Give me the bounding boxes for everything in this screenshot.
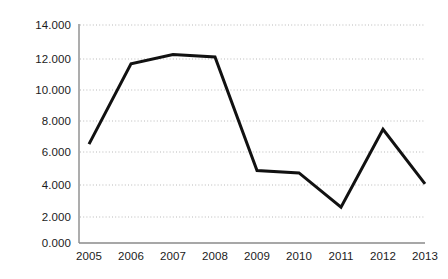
line-chart: 14.000 12.000 10.000 8.000 6.000 4.000 2… (0, 0, 448, 279)
x-tick-label-2009: 2009 (244, 250, 270, 262)
x-tick-label-2006: 2006 (118, 250, 144, 262)
x-tick-label-2007: 2007 (160, 250, 186, 262)
x-tick-label-2013: 2013 (412, 250, 438, 262)
x-tick-label-2010: 2010 (286, 250, 312, 262)
x-tick-label-2012: 2012 (370, 250, 396, 262)
x-tick-label-2008: 2008 (202, 250, 228, 262)
x-tick-label-2011: 2011 (328, 250, 353, 262)
x-axis-tick-labels: 2005 2006 2007 2008 2009 2010 2011 2012 … (0, 0, 448, 279)
x-tick-label-2005: 2005 (76, 250, 102, 262)
